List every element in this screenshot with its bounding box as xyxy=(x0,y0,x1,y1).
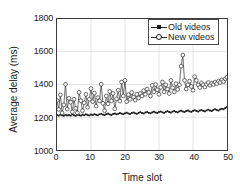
legend-label-new-videos: New videos xyxy=(168,33,215,42)
x-tick-50: 50 xyxy=(218,153,238,162)
x-tick-20: 20 xyxy=(115,153,135,162)
x-axis-title: Time slot xyxy=(56,172,228,183)
y-tick-1800: 1800 xyxy=(34,14,53,23)
legend-entry-old-videos: Old videos xyxy=(151,22,215,32)
x-tick-30: 30 xyxy=(149,153,169,162)
chart-legend: Old videos New videos xyxy=(148,19,219,45)
x-tick-0: 0 xyxy=(46,153,66,162)
legend-entry-new-videos: New videos xyxy=(151,32,215,42)
chart-figure: 1800 1600 1400 1200 1000 0 10 20 30 40 5… xyxy=(0,0,240,194)
x-tick-10: 10 xyxy=(80,153,100,162)
filled-square-marker-icon xyxy=(151,23,167,32)
y-tick-1400: 1400 xyxy=(34,80,53,89)
open-circle-marker-icon xyxy=(151,33,167,42)
x-axis-tick-labels: 0 10 20 30 40 50 xyxy=(0,153,240,167)
legend-label-old-videos: Old videos xyxy=(168,23,211,32)
y-axis-title: Average delay (ms) xyxy=(8,25,19,155)
y-tick-1600: 1600 xyxy=(34,47,53,56)
y-tick-1200: 1200 xyxy=(34,114,53,123)
x-tick-40: 40 xyxy=(184,153,204,162)
